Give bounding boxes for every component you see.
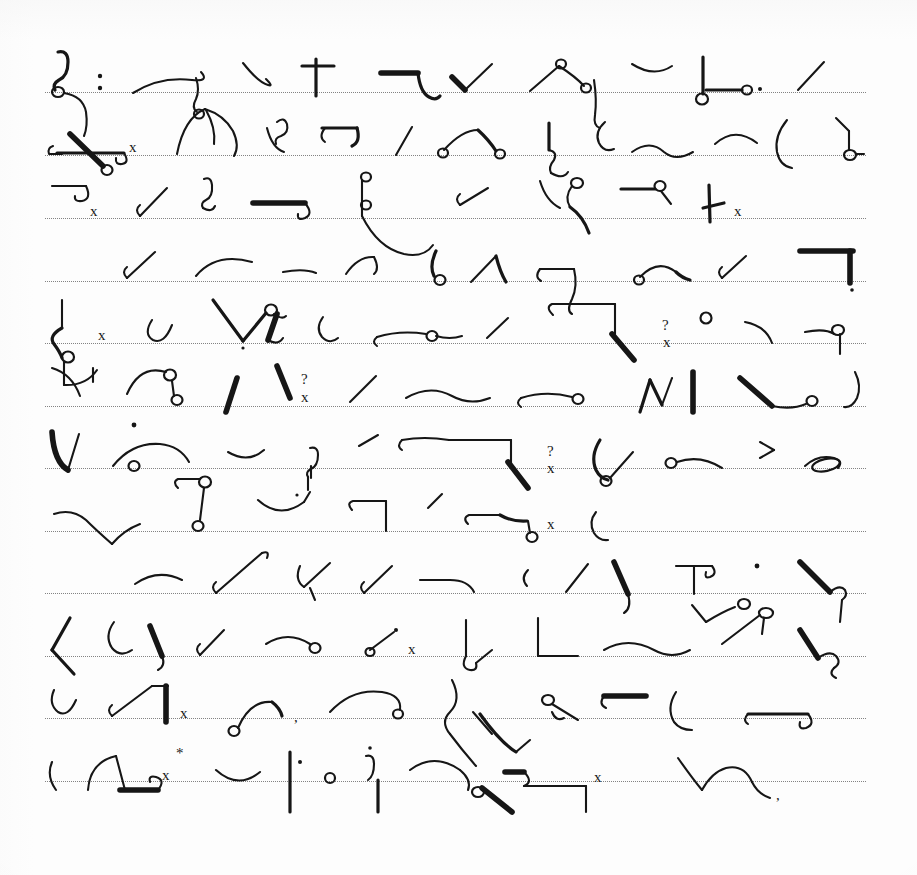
question-mark: ?: [301, 371, 308, 387]
x-mark: x: [180, 705, 188, 721]
shorthand-line-11: x ,: [52, 680, 812, 766]
shorthand-line-10: x: [52, 608, 839, 678]
shorthand-line-8: x: [54, 466, 608, 544]
x-mark: x: [663, 334, 671, 350]
x-mark: x: [734, 203, 742, 219]
x-mark: x: [547, 460, 555, 476]
shorthand-line-2: x: [49, 109, 865, 176]
shorthand-line-5: x ? x: [52, 300, 844, 385]
question-mark: ?: [662, 317, 669, 333]
shorthand-line-7: ? x: [52, 423, 841, 490]
shorthand-ink-layer: x: [0, 0, 917, 875]
comma: ,: [776, 787, 780, 803]
shorthand-line-9: [135, 552, 846, 622]
shorthand-line-1: [52, 52, 824, 136]
asterisk-mark: *: [176, 745, 184, 761]
shorthand-line-6: ? x: [52, 366, 859, 412]
x-mark: x: [547, 516, 555, 532]
manuscript-page: x: [0, 0, 917, 875]
x-mark: x: [90, 203, 98, 219]
comma: ,: [294, 709, 298, 725]
shorthand-line-4: [124, 251, 854, 314]
shorthand-line-12: x * x ,: [50, 745, 780, 812]
x-mark: x: [129, 139, 137, 155]
x-mark: x: [162, 767, 170, 783]
shorthand-line-3: x x: [52, 173, 742, 255]
x-mark: x: [594, 769, 602, 785]
x-mark: x: [408, 641, 416, 657]
question-mark: ?: [547, 443, 554, 459]
x-mark: x: [98, 327, 106, 343]
x-mark: x: [301, 389, 309, 405]
